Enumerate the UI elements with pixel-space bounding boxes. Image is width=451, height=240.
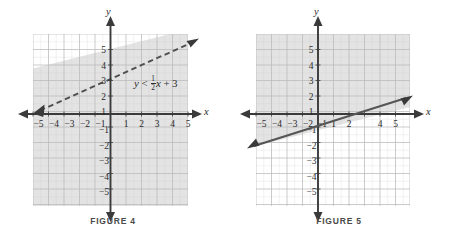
- y-axis-label: y: [314, 6, 319, 17]
- x-tick-label: 2: [347, 119, 352, 129]
- x-tick-label: 2: [139, 119, 144, 129]
- y-tick-label: −5: [99, 187, 109, 197]
- y-axis-up-arrow: [106, 16, 115, 26]
- x-tick-label: 5: [393, 119, 398, 129]
- y-tick-label: −4: [306, 172, 316, 182]
- y-tick-label: −4: [99, 172, 109, 182]
- x-axis-label: x: [204, 106, 209, 117]
- equation-lhs: y: [134, 77, 139, 89]
- y-axis-up-arrow: [314, 16, 323, 26]
- figure-4: −5 −4 −3 −2 −1 1 2 3 4 5 5 4 3 2 1 −1 −2…: [0, 0, 226, 240]
- figure-caption: FIGURE 4: [0, 216, 226, 226]
- x-tick-label: 1: [124, 119, 129, 129]
- y-tick-label: −3: [99, 156, 109, 166]
- x-tick-label: −2: [80, 119, 90, 129]
- fraction-denominator: 2: [151, 84, 156, 92]
- y-tick-label: −2: [99, 141, 109, 151]
- y-tick-label: −1: [99, 125, 109, 135]
- x-tick-label: 5: [186, 119, 191, 129]
- y-tick-label: 3: [309, 76, 314, 86]
- y-tick-label: 5: [101, 45, 106, 55]
- figure-4-plot: −5 −4 −3 −2 −1 1 2 3 4 5 5 4 3 2 1 −1 −2…: [0, 0, 226, 240]
- y-tick-label: −2: [306, 141, 316, 151]
- x-tick-label: −4: [49, 119, 59, 129]
- x-axis-label: x: [426, 106, 431, 117]
- figure-caption: FIGURE 5: [226, 216, 451, 226]
- x-axis-left-arrow: [18, 110, 28, 119]
- y-tick-label: −5: [306, 187, 316, 197]
- equation-relation: <: [141, 77, 147, 89]
- x-tick-label: −5: [33, 119, 43, 129]
- x-axis-left-arrow: [240, 110, 250, 119]
- figure-5: −5 −4 −3 −2 −1 1 2 4 5 5 4 3 2 1 −1 −2 −…: [226, 0, 451, 240]
- y-tick-label: 3: [101, 76, 106, 86]
- y-tick-label: 2: [309, 92, 314, 102]
- y-tick-label: 1: [309, 107, 314, 117]
- fraction-one-half: 12: [151, 75, 156, 92]
- x-tick-label: −4: [272, 119, 282, 129]
- x-axis-right-arrow: [192, 110, 202, 119]
- figure-page: −5 −4 −3 −2 −1 1 2 3 4 5 5 4 3 2 1 −1 −2…: [0, 0, 451, 240]
- equation-sign: +: [163, 77, 169, 89]
- y-tick-label: 4: [101, 61, 106, 71]
- y-tick-label: 5: [309, 45, 314, 55]
- y-tick-label: 2: [101, 92, 106, 102]
- x-tick-label: −3: [287, 119, 297, 129]
- x-tick-label: 3: [155, 119, 160, 129]
- equation-variable: x: [156, 77, 161, 89]
- figure-5-plot: −5 −4 −3 −2 −1 1 2 4 5 5 4 3 2 1 −1 −2 −…: [226, 0, 451, 240]
- x-tick-label: 4: [170, 119, 175, 129]
- x-tick-label: 4: [378, 119, 383, 129]
- x-tick-label: −5: [256, 119, 266, 129]
- y-tick-label: 1: [101, 107, 106, 117]
- x-tick-label: −3: [64, 119, 74, 129]
- y-axis-label: y: [106, 6, 111, 17]
- y-tick-label: 4: [309, 61, 314, 71]
- inequality-label-figure-4: y<12x+3: [134, 75, 178, 92]
- x-axis-right-arrow: [414, 110, 424, 119]
- y-tick-label: −3: [306, 156, 316, 166]
- equation-constant: 3: [172, 77, 178, 89]
